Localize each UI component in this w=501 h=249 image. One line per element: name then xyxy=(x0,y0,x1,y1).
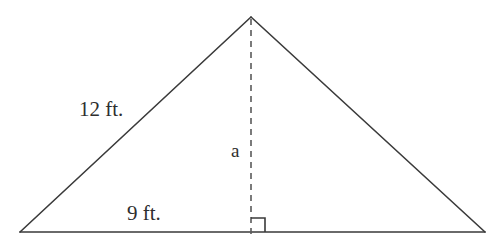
triangle-figure xyxy=(0,0,501,249)
label-left-side-length: 12 ft. xyxy=(79,99,123,120)
triangle-diagram: 12 ft. 9 ft. a xyxy=(0,0,501,249)
label-altitude-variable: a xyxy=(231,141,239,160)
label-base-segment-length: 9 ft. xyxy=(127,203,161,224)
triangle-right-side xyxy=(251,17,485,232)
right-angle-marker xyxy=(251,218,265,232)
triangle-left-side xyxy=(20,17,251,232)
